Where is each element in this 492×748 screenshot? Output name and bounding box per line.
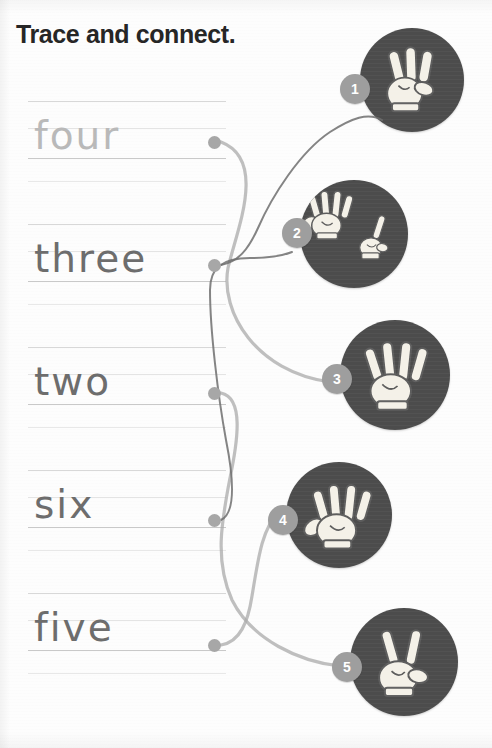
connector-dot-four[interactable] bbox=[208, 136, 221, 149]
circle-number-badge-1[interactable]: 1 bbox=[340, 74, 370, 104]
circle-number-badge-3[interactable]: 3 bbox=[322, 364, 352, 394]
connector-dots bbox=[0, 0, 492, 748]
worksheet-page: Trace and connect. fourthreetwosixfive 1… bbox=[0, 0, 492, 748]
circle-number-badge-5[interactable]: 5 bbox=[332, 652, 362, 682]
connector-dot-three[interactable] bbox=[208, 259, 221, 272]
connector-dot-two[interactable] bbox=[208, 387, 221, 400]
circle-number-badge-4[interactable]: 4 bbox=[268, 505, 298, 535]
circle-number-badge-2[interactable]: 2 bbox=[282, 218, 312, 248]
connector-dot-five[interactable] bbox=[208, 639, 221, 652]
connector-dot-six[interactable] bbox=[208, 514, 221, 527]
